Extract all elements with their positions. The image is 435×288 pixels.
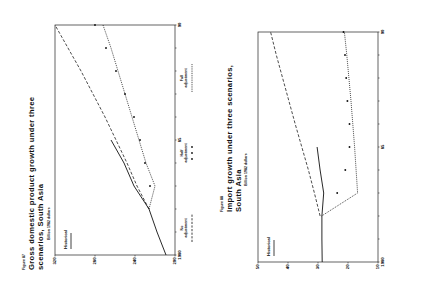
no-adjustment-line bbox=[271, 32, 321, 216]
half-adjustment-marker bbox=[344, 169, 346, 171]
y-tick-label: 30 bbox=[315, 264, 320, 269]
plot-frame bbox=[258, 32, 378, 262]
x-tick-label: 90 bbox=[380, 29, 385, 34]
full-adjustment-line bbox=[322, 32, 358, 216]
half-adjustment-marker bbox=[343, 31, 345, 33]
y-tick-label: 50 bbox=[255, 264, 260, 269]
plot-area: 504030201019808590Historical bbox=[255, 29, 385, 269]
y-tick-label: 40 bbox=[285, 264, 290, 269]
half-adjustment-marker bbox=[336, 192, 338, 194]
historical-line bbox=[317, 147, 324, 262]
y-tick-label: 20 bbox=[345, 264, 350, 269]
imports-line-chart: 504030201019808590Historical bbox=[0, 0, 435, 288]
half-adjustment-marker bbox=[345, 77, 347, 79]
x-tick-label: 1980 bbox=[380, 257, 385, 267]
half-adjustment-marker bbox=[349, 123, 351, 125]
x-tick-label: 85 bbox=[380, 144, 385, 149]
half-adjustment-marker bbox=[349, 146, 351, 148]
historical-key-label: Historical bbox=[266, 237, 271, 256]
half-adjustment-marker bbox=[346, 100, 348, 102]
document-page: Figure 87 Gross domestic product growth … bbox=[0, 0, 435, 288]
half-adjustment-marker bbox=[344, 54, 346, 56]
